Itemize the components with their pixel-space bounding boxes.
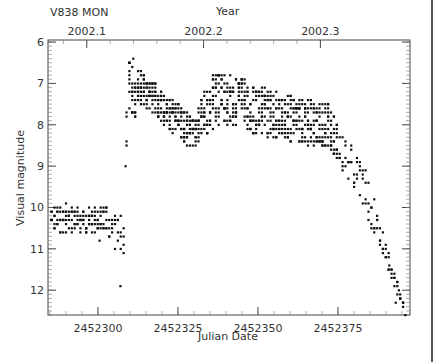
y-tick-label: 8 [37,119,44,132]
top-tick-label: 2002.1 [67,25,106,38]
x-tick-label: 2452325 [153,322,202,335]
axes: 6789101112245230024523252452350245237520… [30,25,410,335]
y-tick-label: 10 [30,201,44,214]
plot-frame [48,40,410,315]
y-tick-label: 11 [30,243,44,256]
top-axis-title: Year [215,5,240,18]
data-points [51,58,407,317]
light-curve-chart: V838 MON Year Julian Date Visual magnitu… [0,0,434,362]
y-tick-label: 6 [37,36,44,49]
y-tick-label: 7 [37,77,44,90]
x-tick-label: 2452350 [233,322,282,335]
y-tick-label: 12 [30,284,44,297]
y-axis-title: Visual magnitude [14,130,27,226]
x-tick-label: 2452300 [73,322,122,335]
top-tick-label: 2002.3 [301,25,340,38]
top-tick-label: 2002.2 [184,25,223,38]
x-tick-label: 2452375 [313,322,362,335]
window-border [431,0,433,362]
y-tick-label: 9 [37,160,44,173]
chart-title: V838 MON [50,6,108,19]
